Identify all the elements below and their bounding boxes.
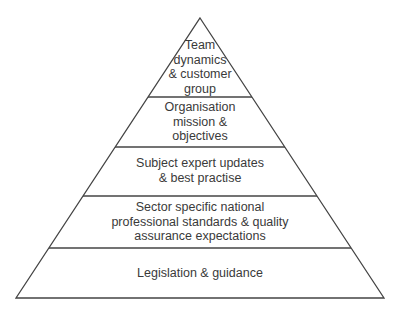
tier-1-team-dynamics: Team dynamics & customer group — [0, 38, 400, 96]
tier-4-sector-standards: Sector specific national professional st… — [0, 200, 400, 244]
tier-5-legislation-guidance: Legislation & guidance — [0, 266, 400, 281]
tier-3-subject-expert-updates: Subject expert updates & best practise — [0, 156, 400, 185]
tier-2-organisation-mission: Organisation mission & objectives — [0, 100, 400, 144]
